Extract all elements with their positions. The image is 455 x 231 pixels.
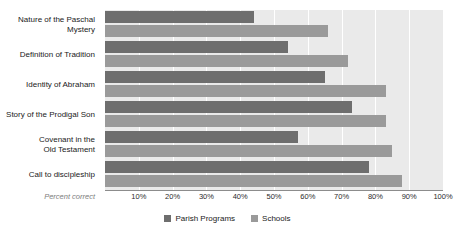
bar-group — [105, 10, 443, 40]
x-tick-label: 100% — [433, 192, 452, 201]
legend-swatch-icon — [251, 215, 258, 222]
category-label: Identity of Abraham — [0, 70, 100, 100]
bar-group — [105, 160, 443, 190]
legend-swatch-icon — [164, 215, 171, 222]
category-row: Story of the Prodigal Son — [0, 100, 455, 130]
bar-schools[interactable] — [105, 115, 386, 127]
category-row: Covenant in theOld Testament — [0, 130, 455, 160]
x-tick-label: 60% — [300, 192, 315, 201]
bar-schools[interactable] — [105, 25, 328, 37]
bar-schools[interactable] — [105, 175, 402, 187]
bar-schools[interactable] — [105, 145, 392, 157]
x-tick-label: 10% — [131, 192, 146, 201]
bar-rows: Nature of the PaschalMysteryDefinition o… — [0, 10, 455, 190]
bar-chart: Nature of the PaschalMysteryDefinition o… — [0, 0, 455, 231]
legend-label: Parish Programs — [175, 214, 235, 223]
category-row: Identity of Abraham — [0, 70, 455, 100]
bar-parish-programs[interactable] — [105, 161, 369, 173]
bar-schools[interactable] — [105, 85, 386, 97]
category-row: Call to discipleship — [0, 160, 455, 190]
bar-group — [105, 40, 443, 70]
legend-item[interactable]: Schools — [251, 214, 290, 223]
x-axis-line — [105, 190, 443, 191]
category-row: Nature of the PaschalMystery — [0, 10, 455, 40]
chart-title-cutoff — [0, 0, 455, 7]
bar-schools[interactable] — [105, 55, 348, 67]
category-label: Story of the Prodigal Son — [0, 100, 100, 130]
category-label-line: Old Testament — [44, 145, 95, 155]
category-label-line: Call to discipleship — [29, 170, 95, 180]
x-tick-label: 70% — [334, 192, 349, 201]
bar-group — [105, 130, 443, 160]
x-tick-label: 50% — [266, 192, 281, 201]
category-label-line: Mystery — [67, 25, 95, 35]
category-label: Nature of the PaschalMystery — [0, 10, 100, 40]
bar-group — [105, 100, 443, 130]
category-label-line: Definition of Tradition — [20, 50, 95, 60]
x-tick-label: 80% — [368, 192, 383, 201]
x-tick-label: 90% — [402, 192, 417, 201]
x-axis-ticks: 10%20%30%40%50%60%70%80%90%100% — [105, 192, 443, 205]
x-tick-label: 20% — [165, 192, 180, 201]
legend-item[interactable]: Parish Programs — [164, 214, 235, 223]
bar-parish-programs[interactable] — [105, 11, 254, 23]
category-label: Covenant in theOld Testament — [0, 130, 100, 160]
category-label-line: Covenant in the — [39, 135, 95, 145]
chart-legend: Parish ProgramsSchools — [0, 210, 455, 226]
category-label: Call to discipleship — [0, 160, 100, 190]
category-label-line: Story of the Prodigal Son — [6, 110, 95, 120]
category-label-line: Identity of Abraham — [26, 80, 95, 90]
bar-parish-programs[interactable] — [105, 101, 352, 113]
bar-parish-programs[interactable] — [105, 41, 288, 53]
bar-parish-programs[interactable] — [105, 71, 325, 83]
bar-parish-programs[interactable] — [105, 131, 298, 143]
x-tick-label: 40% — [233, 192, 248, 201]
category-label: Definition of Tradition — [0, 40, 100, 70]
category-label-line: Nature of the Paschal — [18, 15, 95, 25]
category-row: Definition of Tradition — [0, 40, 455, 70]
x-axis-title: Percent correct — [0, 192, 100, 201]
bar-group — [105, 70, 443, 100]
legend-label: Schools — [262, 214, 290, 223]
x-tick-label: 30% — [199, 192, 214, 201]
